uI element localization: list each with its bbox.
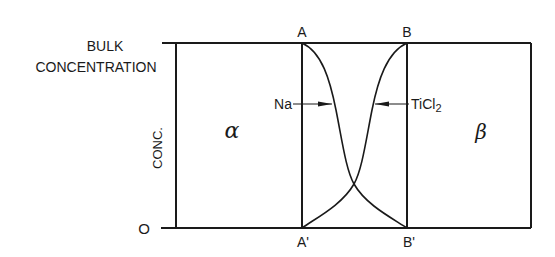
label-b: B [402,24,411,40]
ticl2-main: TiCl [411,96,435,112]
na-label: Na [274,96,292,112]
label-a-prime: A' [297,234,309,250]
zero-label: O [138,220,150,237]
ticl2-arrow [375,102,409,107]
concentration-diagram: BULK CONCENTRATION CONC. O A B A' B' Na … [0,0,555,257]
conc-axis-label: CONC. [150,127,165,169]
na-arrow [293,102,332,107]
label-b-prime: B' [403,234,415,250]
ticl2-subscript: 2 [435,102,441,114]
na-concentration-curve [302,43,407,228]
ticl2-label: TiCl2 [411,96,442,114]
bulk-label: BULK [87,38,124,54]
ticl2-concentration-curve [302,43,407,228]
concentration-label: CONCENTRATION [35,59,156,75]
label-a: A [297,24,307,40]
phase-alpha-label: α [225,118,240,143]
phase-beta-label: β [474,120,487,144]
